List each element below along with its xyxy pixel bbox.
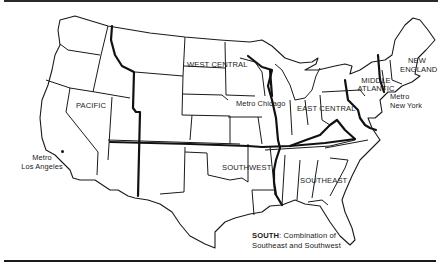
region-label-middle-atlantic: MIDDLE ATLANTIC <box>356 76 396 93</box>
south-note-definition: : Combination of <box>279 231 336 240</box>
south-note-line2: Southeast and Southwest <box>252 241 341 251</box>
region-label-east-central: EAST CENTRAL <box>297 104 355 113</box>
region-label-pacific: PACIFIC <box>76 101 106 110</box>
south-note: SOUTH: Combination of Southeast and Sout… <box>252 231 341 251</box>
region-label-new-england: NEW ENGLAND <box>400 56 437 74</box>
metro-los-angeles-line2: Los Angeles <box>14 162 70 171</box>
metro-los-angeles-line1: Metro <box>14 153 70 162</box>
region-label-southwest: SOUTHWEST <box>222 163 271 172</box>
metro-label-chicago: Metro Chicago <box>236 99 285 108</box>
region-label-new-england-line2: ENGLAND <box>400 65 437 74</box>
south-note-term: SOUTH <box>252 231 279 240</box>
us-map-svg <box>0 0 442 269</box>
region-label-new-england-line1: NEW <box>400 56 437 65</box>
south-note-line1: SOUTH: Combination of <box>252 231 341 241</box>
region-label-west-central: WEST CENTRAL <box>187 60 248 69</box>
metro-new-york-line1: Metro <box>390 92 422 101</box>
metro-label-new-york: Metro New York <box>390 92 422 110</box>
bottom-rule <box>4 260 436 262</box>
region-label-southeast: SOUTHEAST <box>300 176 347 185</box>
us-outline <box>40 16 435 248</box>
metro-new-york-line2: New York <box>390 101 422 110</box>
metro-label-los-angeles: Metro Los Angeles <box>14 153 70 171</box>
us-regions-map: PACIFIC WEST CENTRAL EAST CENTRAL MIDDLE… <box>0 0 442 269</box>
